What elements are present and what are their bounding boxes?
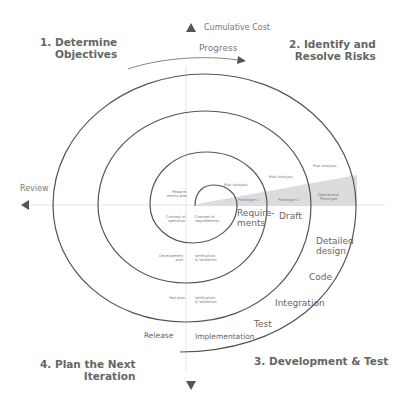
operational-prototype-label: Operational Prototype (318, 193, 339, 201)
text: ments (237, 218, 275, 228)
quadrant-4-title: 4. Plan the Next Iteration (40, 358, 135, 382)
draft-stage-label: Draft (279, 211, 302, 221)
verification-validation-1-label: Verification & Validation (195, 254, 217, 262)
down-arrow-icon (186, 381, 196, 390)
quadrant-1-title: 1. Determine Objectives (40, 36, 117, 60)
text: design (316, 246, 354, 256)
text: plan (159, 258, 183, 262)
text: requirements (195, 219, 219, 223)
prototype-1-label: Prototype 1 (238, 198, 259, 202)
quadrant-4-line2: Iteration (40, 370, 135, 382)
spiral-path (53, 74, 356, 352)
verification-validation-2-label: Verification & Validation (195, 296, 217, 304)
concept-of-operation-label: Concept of operation (166, 215, 185, 223)
quadrant-3-title: 3. Development & Test (254, 355, 388, 367)
prototype-wedge (197, 175, 357, 206)
text: ments plan (167, 194, 187, 198)
prototype-2-label: Prototype 2 (278, 198, 299, 202)
risk-analysis-1-label: Risk Analysis (224, 183, 247, 187)
concept-of-requirements-label: Concept of requirements (195, 215, 219, 223)
cumulative-cost-label: Cumulative Cost (204, 23, 270, 32)
test-plan-label: Test plan (169, 296, 185, 300)
progress-arrow (128, 58, 238, 69)
text: operation (166, 219, 185, 223)
risk-analysis-3-label: Risk Analysis (313, 164, 336, 168)
text: & Validation (195, 258, 217, 262)
quadrant-2-title: 2. Identify and Resolve Risks (289, 38, 376, 62)
cumulative-cost-arrow-icon (186, 23, 196, 32)
review-arrow-icon (21, 200, 29, 210)
integration-stage-label: Integration (275, 298, 325, 308)
quadrant-1-line2: Objectives (40, 48, 117, 60)
quadrant-4-line1: 4. Plan the Next (40, 358, 135, 370)
quadrant-1-line1: 1. Determine (40, 36, 117, 48)
implementation-stage-label: Implementation (195, 333, 255, 342)
detailed-design-stage-label: Detailed design (316, 236, 354, 257)
development-plan-label: Development plan (159, 254, 183, 262)
progress-label: Progress (199, 43, 237, 53)
risk-analysis-2-label: Risk Analysis (269, 175, 292, 179)
review-label: Review (20, 184, 49, 193)
text: Prototype (318, 197, 339, 201)
text: Require- (237, 208, 275, 218)
quadrant-2-line2: Resolve Risks (289, 50, 376, 62)
text: Detailed (316, 236, 354, 246)
requirements-plan-label: Require- ments plan (167, 190, 187, 198)
requirements-stage-label: Require- ments (237, 208, 275, 229)
progress-arrowhead (237, 56, 246, 64)
code-stage-label: Code (309, 272, 332, 282)
release-stage-label: Release (144, 332, 173, 341)
test-stage-label: Test (254, 319, 272, 329)
quadrant-2-line1: 2. Identify and (289, 38, 376, 50)
text: & Validation (195, 300, 217, 304)
quadrant-3-line1: 3. Development & Test (254, 355, 388, 367)
